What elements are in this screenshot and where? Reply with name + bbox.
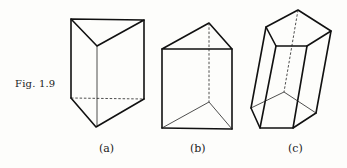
prism-a bbox=[71, 19, 144, 127]
subfigure-label-a: (a) bbox=[99, 142, 114, 155]
prism-c bbox=[251, 10, 331, 128]
subfigure-label-b: (b) bbox=[190, 142, 206, 155]
prism-b bbox=[162, 23, 232, 129]
figure-label: Fig. 1.9 bbox=[15, 78, 55, 89]
subfigure-label-c: (c) bbox=[288, 142, 303, 155]
figure-1-9: Fig. 1.9 (a) (b) (c) bbox=[0, 0, 347, 168]
